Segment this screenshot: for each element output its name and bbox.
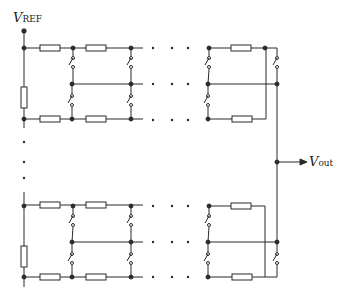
resistor-top-2 [86,45,106,51]
vout-label: Vout [309,155,333,168]
resistor-bottom-2 [86,116,106,122]
vout-label-subscript: out [318,158,333,168]
resistor-left-vertical-upper [21,87,27,108]
upper-block [21,45,279,122]
resistor-top-1 [40,45,60,51]
vout-arrow-icon [300,159,307,165]
circuit-schematic [0,0,340,301]
resistor-top-last [231,45,251,51]
resistor-left-vertical-lower [21,246,27,267]
vref-label-main: V [13,10,22,25]
vout-label-main: V [309,154,318,169]
continuation-dots-upper [152,47,189,121]
circuit-diagram: VREF Vout [0,0,340,301]
continuation-dots-vertical [23,141,25,179]
lower-block [21,192,279,287]
resistor-bottom-last [232,116,252,122]
vref-label-subscript: REF [22,14,42,24]
resistor-bottom-1 [40,116,60,122]
vref-label: VREF [13,11,42,24]
